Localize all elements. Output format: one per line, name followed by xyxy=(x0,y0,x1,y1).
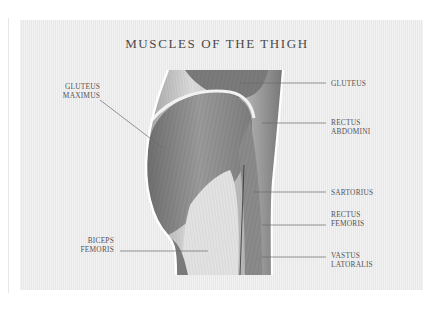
label-biceps-femoris: BICEPS FEMORIS xyxy=(81,236,114,254)
muscle-group xyxy=(140,65,290,280)
label-rectus-femoris: RECTUS FEMORIS xyxy=(331,210,364,228)
label-rectus-abdomini: RECTUS ABDOMINI xyxy=(331,118,370,136)
label-sartorius: SARTORIUS xyxy=(331,188,373,197)
label-gluteus: GLUTEUS xyxy=(331,79,366,88)
label-gluteus-maximus: GLUTEUS MAXIMUS xyxy=(63,82,100,100)
label-vastus-latoralis: VASTUS LATORALIS xyxy=(331,251,373,269)
